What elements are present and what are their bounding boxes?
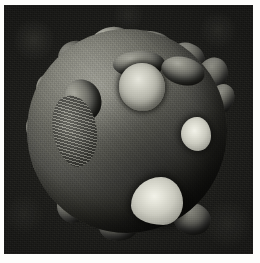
main-bright-crater [119, 63, 165, 111]
sem-micrograph-figure [0, 0, 260, 263]
micrograph-plate [4, 5, 253, 254]
right-bright-flake [181, 117, 211, 151]
spherical-particle [23, 21, 235, 241]
